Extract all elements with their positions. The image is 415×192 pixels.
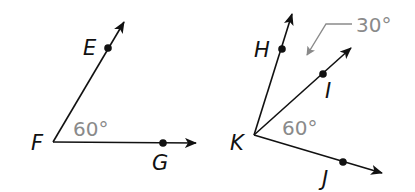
label-i: I bbox=[325, 79, 331, 103]
label-k: K bbox=[230, 131, 246, 155]
label-g: G bbox=[152, 151, 168, 175]
geometry-diagram: E F G 60° H I K J 60° 30° bbox=[0, 0, 415, 192]
angle-hkj-figure: H I K J 60° 30° bbox=[230, 13, 391, 191]
angle-label-efg: 60° bbox=[73, 117, 108, 141]
label-f: F bbox=[31, 131, 44, 155]
diagram-svg: E F G 60° H I K J 60° 30° bbox=[0, 0, 415, 192]
label-h: H bbox=[254, 38, 270, 62]
label-j: J bbox=[318, 167, 328, 191]
point-h bbox=[278, 45, 286, 53]
point-e bbox=[104, 44, 112, 52]
label-e: E bbox=[83, 36, 97, 60]
angle-efg-figure: E F G 60° bbox=[31, 22, 196, 175]
callout-leader-30 bbox=[307, 24, 352, 55]
angle-label-ikj: 60° bbox=[282, 116, 317, 140]
angle-label-hki: 30° bbox=[356, 13, 391, 37]
point-g bbox=[159, 139, 167, 147]
ray-fg bbox=[53, 142, 196, 143]
point-i bbox=[319, 70, 327, 78]
ray-kj bbox=[254, 135, 382, 173]
point-j bbox=[339, 158, 347, 166]
